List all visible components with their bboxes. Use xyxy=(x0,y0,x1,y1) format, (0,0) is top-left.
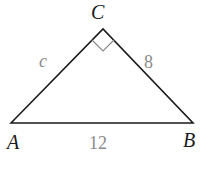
side-label-ab: 12 xyxy=(89,133,107,153)
triangle-abc xyxy=(11,29,193,123)
vertex-label-b: B xyxy=(183,129,195,151)
right-angle-marker xyxy=(92,40,114,51)
right-triangle-diagram: C A B c 8 12 xyxy=(0,0,222,176)
side-label-cb: 8 xyxy=(144,52,153,72)
vertex-label-c: C xyxy=(91,1,105,23)
vertex-label-a: A xyxy=(5,131,20,153)
side-label-ac: c xyxy=(39,51,47,71)
